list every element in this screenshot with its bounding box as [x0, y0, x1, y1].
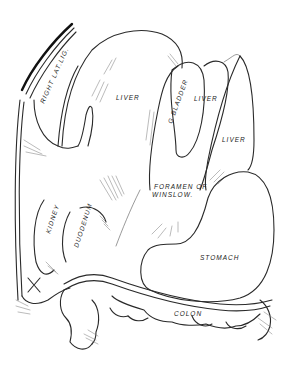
liver-right-lobe: [205, 56, 254, 190]
label-gall-bladder: G BLADDER: [166, 78, 189, 124]
label-duodenum: DUODENUM: [72, 202, 93, 248]
lesser-omentum: [100, 176, 140, 246]
label-colon: COLON: [174, 310, 202, 317]
transverse-colon: [60, 275, 276, 349]
label-liver-middle: LIVER: [194, 95, 218, 102]
anatomy-illustration: RIGHT LAT.LIG. LIVER G BLADDER LIVER LIV…: [0, 0, 294, 372]
label-foramen-line2: WINSLOW.: [152, 191, 193, 198]
body-wall: [15, 24, 76, 300]
marker-x: [28, 278, 40, 292]
label-liver-main: LIVER: [116, 94, 140, 101]
label-foramen-line1: FORAMEN OF: [154, 183, 207, 190]
label-stomach: STOMACH: [200, 254, 239, 261]
label-liver-right: LIVER: [222, 136, 246, 143]
liver-main-lobe: [62, 31, 182, 190]
label-kidney: KIDNEY: [44, 203, 60, 234]
